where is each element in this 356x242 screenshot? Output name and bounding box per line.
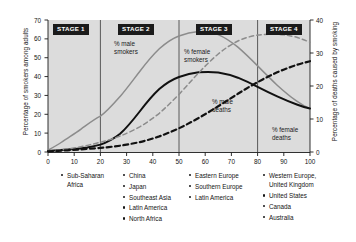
annotation-male-deaths-line1: % male	[212, 98, 233, 106]
legend-column-stage-1: Sub-Saharan Africa	[60, 171, 122, 191]
legend-item: Southern Europe	[188, 182, 262, 191]
stage-label-4: STAGE 4	[266, 24, 302, 35]
annotation-male-smokers-line1: % male	[114, 40, 138, 48]
y-left-tick-50: 50	[23, 54, 41, 61]
legend-column-stage-2: China Japan Southeast Asia Latin America…	[122, 171, 188, 225]
x-tick-60: 60	[195, 158, 215, 165]
x-tick-20: 20	[90, 158, 110, 165]
x-axis	[48, 153, 310, 157]
y-left-tick-10: 10	[23, 130, 41, 137]
x-tick-50: 50	[169, 158, 189, 165]
annotation-female-deaths-line2: deaths	[272, 134, 298, 142]
legend-item: Southeast Asia	[122, 193, 188, 202]
stage-label-2: STAGE 2	[118, 24, 154, 35]
annotation-male-deaths-line2: deaths	[212, 106, 233, 114]
legend-column-stage-3: Eastern Europe Southern Europe Latin Ame…	[188, 171, 262, 203]
annotation-female-deaths-line1: % female	[272, 126, 298, 134]
y-left-tick-0: 0	[23, 149, 41, 156]
x-tick-0: 0	[38, 158, 58, 165]
x-tick-80: 80	[248, 158, 268, 165]
legend-column-stage-4: Western Europe, United Kingdom United St…	[262, 171, 350, 224]
smoking-epidemic-chart: Percentage of smokers among adults Perce…	[0, 0, 356, 242]
legend-item: Latin America	[122, 203, 188, 212]
annotation-male-smokers: % male smokers	[114, 40, 138, 56]
annotation-male-smokers-line2: smokers	[114, 48, 138, 56]
legend-item: Western Europe, United Kingdom	[262, 171, 350, 190]
annotation-female-smokers-line1: % female	[184, 48, 210, 56]
legend-item: Sub-Saharan Africa	[60, 171, 122, 190]
legend-item: China	[122, 171, 188, 180]
stage-label-3: STAGE 3	[196, 24, 232, 35]
x-tick-70: 70	[221, 158, 241, 165]
annotation-female-deaths: % female deaths	[272, 126, 298, 142]
y-left-tick-20: 20	[23, 111, 41, 118]
legend-item: Latin America	[188, 193, 262, 202]
x-tick-40: 40	[143, 158, 163, 165]
x-tick-100: 100	[300, 158, 320, 165]
legend-item: Japan	[122, 182, 188, 191]
legend-item: United States	[262, 191, 350, 200]
x-tick-10: 10	[64, 158, 84, 165]
y-left-tick-60: 60	[23, 35, 41, 42]
annotation-male-deaths: % male deaths	[212, 98, 233, 114]
annotation-female-smokers-line2: smokers	[184, 56, 210, 64]
annotation-female-smokers: % female smokers	[184, 48, 210, 64]
y-left-tick-30: 30	[23, 92, 41, 99]
y-axis-right	[310, 20, 314, 153]
stage-label-1: STAGE 1	[53, 24, 89, 35]
y-axis-right-title: Percentage of deaths caused by smoking	[331, 11, 338, 153]
x-tick-30: 30	[117, 158, 137, 165]
legend-item: Canada	[262, 202, 350, 211]
y-left-tick-70: 70	[23, 17, 41, 24]
y-right-tick-20: 20	[316, 83, 334, 90]
y-right-tick-10: 10	[316, 116, 334, 123]
y-right-tick-0: 0	[316, 149, 334, 156]
y-axis-left	[45, 20, 49, 153]
legend-item: Australia	[262, 213, 350, 222]
legend-item: North Africa	[122, 214, 188, 223]
legend-item: Eastern Europe	[188, 171, 262, 180]
y-left-tick-40: 40	[23, 73, 41, 80]
x-tick-90: 90	[274, 158, 294, 165]
y-right-tick-30: 30	[316, 50, 334, 57]
y-right-tick-40: 40	[316, 17, 334, 24]
